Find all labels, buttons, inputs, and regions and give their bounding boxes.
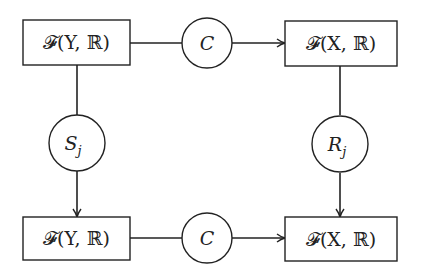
node-bottom-left-label: 𝓕(Y, ℝ) xyxy=(43,227,110,249)
operator-top-c-label: C xyxy=(200,32,215,54)
node-bottom-left: 𝓕(Y, ℝ) xyxy=(23,217,130,260)
node-top-right: 𝓕(X, ℝ) xyxy=(285,21,397,66)
operator-bottom-c-label: C xyxy=(200,227,215,249)
operator-r-j-base: R xyxy=(327,133,342,155)
operator-r-j: Rj xyxy=(312,116,368,172)
operator-top-c: C xyxy=(182,18,232,68)
operator-bottom-c: C xyxy=(182,213,232,263)
node-bottom-right-label: 𝓕(X, ℝ) xyxy=(306,228,376,250)
operator-s-j-base: S xyxy=(64,132,77,154)
commutative-diagram: 𝓕(Y, ℝ) 𝓕(X, ℝ) 𝓕(Y, ℝ) 𝓕(X, ℝ) C C Sj R… xyxy=(0,0,421,280)
node-top-left: 𝓕(Y, ℝ) xyxy=(23,20,130,65)
node-top-right-label: 𝓕(X, ℝ) xyxy=(306,32,376,54)
node-top-left-label: 𝓕(Y, ℝ) xyxy=(43,31,110,53)
node-bottom-right: 𝓕(X, ℝ) xyxy=(285,217,397,261)
operator-s-j: Sj xyxy=(49,115,105,171)
